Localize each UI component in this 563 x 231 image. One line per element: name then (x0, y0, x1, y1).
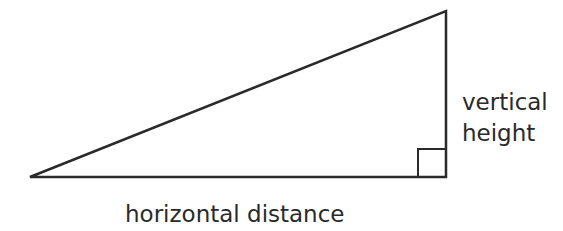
right-triangle (30, 11, 446, 177)
right-angle-marker (418, 149, 446, 177)
vertical-label-line1: vertical (462, 87, 548, 117)
horizontal-label: horizontal distance (125, 199, 345, 229)
vertical-label-line2: height (462, 118, 535, 148)
